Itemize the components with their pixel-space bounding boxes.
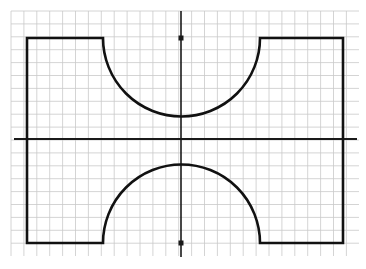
grid-vertical-lines — [11, 11, 346, 256]
grid-layer — [11, 11, 359, 256]
grid-horizontal-lines — [11, 11, 359, 243]
part-outline — [27, 38, 343, 243]
drawing-svg — [0, 0, 366, 269]
top-center-marker — [179, 36, 184, 41]
centerline-layer — [14, 11, 357, 257]
bottom-center-marker — [179, 241, 184, 246]
drawing-canvas — [0, 0, 366, 269]
profile-layer — [27, 38, 343, 243]
